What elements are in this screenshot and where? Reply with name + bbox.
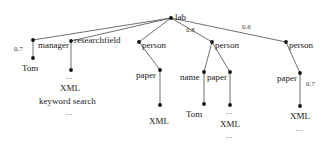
node-dot-paper3[interactable] xyxy=(298,71,302,75)
node-dot-person1[interactable] xyxy=(137,40,141,44)
node-label-manager: manager xyxy=(38,41,69,50)
node-label-person-2: person xyxy=(215,41,239,50)
ellipsis-paper3-tail: ... xyxy=(296,126,303,133)
node-dot-manager[interactable] xyxy=(31,38,35,42)
node-dot-researchfield[interactable] xyxy=(69,39,73,43)
tree-diagram-canvas: lab manager researchfield person person … xyxy=(0,0,332,150)
edge-weight-manager-tom: 0.7 xyxy=(14,46,23,53)
edge-person2-name xyxy=(204,42,212,72)
leaf-label-xml-paper1: XML xyxy=(149,117,169,126)
node-dot-paper2[interactable] xyxy=(228,70,232,74)
node-dot-paper1[interactable] xyxy=(158,68,162,72)
leaf-label-xml-researchfield: XML xyxy=(60,84,80,93)
node-label-person-1: person xyxy=(142,41,166,50)
node-dot-name2-child[interactable] xyxy=(202,102,206,106)
leaf-label-xml-paper2: XML xyxy=(220,120,240,129)
node-label-researchfield: researchfield xyxy=(74,36,120,45)
node-label-paper-3: paper xyxy=(277,74,297,83)
ellipsis-researchfield-tail: ... xyxy=(66,110,73,117)
node-label-paper-1: paper xyxy=(136,71,156,80)
node-dot-tom-left[interactable] xyxy=(31,56,35,60)
node-dot-person3[interactable] xyxy=(284,40,288,44)
edge-weight-lab-person2: 0.8 xyxy=(186,27,195,34)
node-label-paper-2: paper xyxy=(207,73,227,82)
node-label-name-2: name xyxy=(180,73,200,82)
edge-weight-lab-person3: 0.6 xyxy=(242,24,251,31)
ellipsis-researchfield-dots: ... xyxy=(66,74,73,81)
node-dot-name2[interactable] xyxy=(202,70,206,74)
node-label-lab: lab xyxy=(175,13,186,22)
edge-weight-paper3-child: 0.7 xyxy=(306,81,315,88)
node-dot-paper2-child[interactable] xyxy=(228,103,232,107)
node-dot-paper1-child[interactable] xyxy=(158,103,162,107)
leaf-label-keyword-search: keyword search xyxy=(39,97,96,106)
ellipsis-paper2-dots: ... xyxy=(226,109,233,116)
node-dot-researchfield-child[interactable] xyxy=(69,68,73,72)
ellipsis-paper3-dots: ... xyxy=(296,109,303,116)
ellipsis-paper2-tail: ... xyxy=(226,133,233,140)
leaf-label-tom-name2: Tom xyxy=(186,110,202,119)
leaf-label-tom-left: Tom xyxy=(22,64,38,73)
node-dot-group xyxy=(31,16,302,108)
node-label-person-3: person xyxy=(289,41,313,50)
node-dot-person2[interactable] xyxy=(210,40,214,44)
node-dot-lab[interactable] xyxy=(169,16,173,20)
